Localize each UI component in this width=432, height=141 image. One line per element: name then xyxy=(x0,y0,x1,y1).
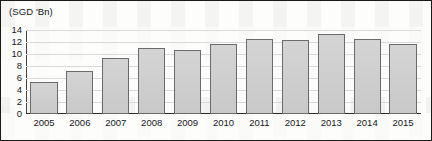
y-axis-tick-label: 14 xyxy=(11,25,22,35)
x-axis-tick-label: 2006 xyxy=(69,117,90,128)
y-axis-tick-label: 0 xyxy=(17,109,22,119)
x-axis-tick-label: 2011 xyxy=(249,117,269,128)
x-axis-tick-label: 2015 xyxy=(392,117,413,128)
x-axis-ticks: 2005200620072008200920102011201220132014… xyxy=(26,117,421,133)
y-axis-unit-label: (SGD 'Bn) xyxy=(9,6,53,17)
bar-2013 xyxy=(318,34,345,114)
x-axis-tick-label: 2013 xyxy=(321,117,342,128)
x-axis-tick-label: 2012 xyxy=(285,117,306,128)
bar-2011 xyxy=(246,39,273,113)
y-axis-tick-label: 4 xyxy=(17,85,22,95)
x-axis-tick-label: 2008 xyxy=(141,117,162,128)
bar-chart: (SGD 'Bn) 02468101214 200520062007200820… xyxy=(0,0,432,141)
x-axis-tick-label: 2014 xyxy=(357,117,378,128)
y-axis-tick-label: 12 xyxy=(11,37,22,47)
y-axis-tick-label: 2 xyxy=(17,97,22,107)
bar-2010 xyxy=(210,44,237,114)
x-axis-tick-label: 2009 xyxy=(177,117,198,128)
x-axis-tick-label: 2007 xyxy=(105,117,126,128)
bar-2007 xyxy=(102,58,129,113)
bar-2008 xyxy=(138,48,165,113)
bar-2009 xyxy=(174,50,201,114)
x-axis-tick-label: 2010 xyxy=(213,117,234,128)
bar-series xyxy=(26,30,421,114)
plot-area: 02468101214 xyxy=(26,30,421,114)
y-axis-tick-label: 6 xyxy=(17,73,22,83)
bar-2014 xyxy=(354,39,381,113)
bar-2006 xyxy=(66,71,93,114)
bar-2005 xyxy=(30,82,57,114)
x-axis-tick-label: 2005 xyxy=(33,117,54,128)
y-axis-tick-label: 8 xyxy=(17,61,22,71)
bar-2012 xyxy=(282,40,309,114)
y-axis-tick-label: 10 xyxy=(11,49,22,59)
bar-2015 xyxy=(389,44,416,114)
